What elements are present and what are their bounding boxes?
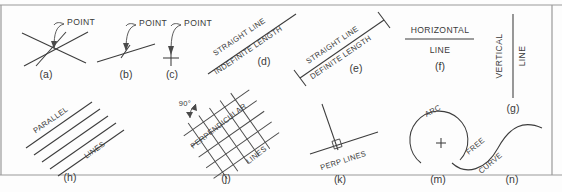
figure-e-annotation-line1: STRAIGHT LINE: [304, 24, 360, 66]
figure-f-annotation-line1: HORIZONTAL: [411, 25, 470, 35]
figure-b-annotation: POINT: [139, 18, 168, 28]
figure-f-annotation-line2: LINE: [430, 45, 451, 55]
figure-k-perpendicular-lines: [310, 104, 378, 154]
figure-d-straight-line-indefinite: [208, 14, 296, 74]
drawing-plate: POINT (a) POINT (b) POINT (c): [0, 0, 562, 192]
figure-a-label: (a): [40, 68, 53, 80]
figure-e-label: (e): [350, 62, 363, 74]
figure-j-perpendicular-grid: [179, 83, 284, 185]
figure-e-annotation-line2: DEFINITE LENGTH: [308, 34, 373, 82]
figure-k-annotation: PERP LINES: [319, 149, 367, 172]
figure-h-parallel-lines: [26, 102, 124, 176]
figure-c-label: (c): [166, 68, 178, 80]
figure-m-arc: [410, 111, 468, 163]
figure-h-label: (h): [64, 171, 77, 183]
figure-n-annotation-line2: CURVE: [477, 151, 504, 176]
figure-g-annotation-line1: VERTICAL: [494, 33, 504, 78]
figure-d-annotation-line2: INDEFINITE LENGTH: [212, 24, 284, 76]
figure-g-annotation-line2: LINE: [517, 46, 527, 67]
figure-j-label: (j): [221, 172, 230, 184]
figure-d-label: (d): [258, 55, 271, 67]
figure-g-label: (g): [507, 102, 520, 114]
figure-c-annotation: POINT: [184, 18, 213, 28]
figure-a-annotation: POINT: [67, 17, 96, 27]
figure-f-label: (f): [435, 60, 445, 72]
figure-a-point-intersection: [22, 23, 88, 66]
figure-e-straight-line-definite: [294, 12, 390, 86]
figure-n-free-curve: [452, 125, 542, 170]
plate-border: [0, 5, 562, 175]
figure-b-label: (b): [120, 68, 133, 80]
figure-j-angle-note: 90°: [179, 99, 191, 108]
figure-b-point-on-line: [97, 24, 155, 62]
figure-c-point-cross-mark: [163, 24, 181, 66]
plate-canvas: POINT (a) POINT (b) POINT (c): [0, 0, 562, 192]
figure-d-annotation-line1: STRAIGHT LINE: [211, 16, 267, 58]
